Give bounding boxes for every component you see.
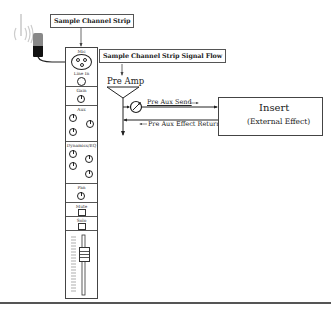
section-mute: Mute bbox=[66, 203, 97, 217]
aux-label: Aux bbox=[66, 107, 97, 112]
aux-knob-3[interactable] bbox=[69, 128, 77, 136]
section-aux: Aux bbox=[66, 106, 97, 142]
insert-box: Insert (External Effect) bbox=[218, 97, 323, 136]
solo-button[interactable] bbox=[78, 223, 86, 230]
section-gain: Gain bbox=[66, 87, 97, 106]
aux-knob-2[interactable] bbox=[86, 120, 94, 128]
signal-flow-title: Sample Channel Strip Signal Flow bbox=[99, 49, 226, 63]
gain-knob[interactable] bbox=[77, 95, 85, 103]
eq-knob-3[interactable] bbox=[69, 162, 77, 170]
line-in-label: Line In bbox=[66, 71, 97, 76]
pre-amp-label: Pre Amp bbox=[107, 76, 144, 86]
pan-label: Pan bbox=[66, 185, 97, 190]
eq-knob-1[interactable] bbox=[69, 150, 77, 158]
xlr-input-icon[interactable] bbox=[71, 54, 92, 70]
pre-aux-return-label: Pre Aux Effect Return bbox=[148, 120, 220, 128]
mic-cable bbox=[0, 0, 331, 316]
fader-handle[interactable] bbox=[79, 247, 90, 262]
eq-knob-4[interactable] bbox=[85, 170, 93, 178]
section-mic: Mic Line In bbox=[66, 48, 97, 87]
channel-strip: Mic Line In Gain Aux Dynamics/EQ Pan Mut… bbox=[65, 47, 98, 299]
pan-knob[interactable] bbox=[77, 192, 85, 200]
line-in-jack-icon[interactable] bbox=[77, 77, 86, 86]
mute-button[interactable] bbox=[78, 209, 86, 216]
section-pan: Pan bbox=[66, 184, 97, 203]
insert-title: Insert bbox=[259, 102, 289, 113]
aux-knob-1[interactable] bbox=[69, 114, 77, 122]
section-dynamics-eq: Dynamics/EQ bbox=[66, 142, 97, 184]
fader-section bbox=[66, 231, 97, 298]
section-solo: Solo bbox=[66, 217, 97, 231]
insert-subtitle: (External Effect) bbox=[247, 117, 310, 126]
channel-strip-title: Sample Channel Strip bbox=[50, 14, 134, 28]
dynamics-eq-label: Dynamics/EQ bbox=[66, 143, 97, 148]
pre-aux-send-label: Pre Aux Send bbox=[147, 98, 192, 106]
eq-knob-2[interactable] bbox=[85, 155, 93, 163]
gain-label: Gain bbox=[66, 88, 97, 93]
bottom-divider bbox=[0, 302, 331, 304]
